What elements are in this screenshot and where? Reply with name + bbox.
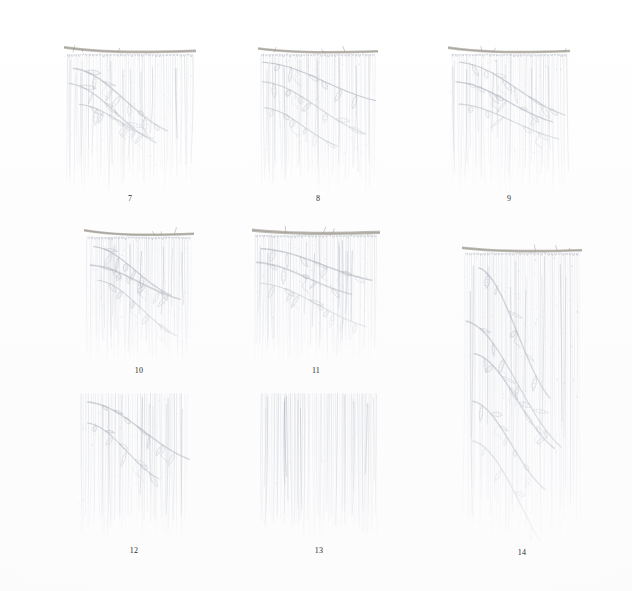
figure-caption-13: 13 — [258, 546, 380, 556]
figure-12 — [78, 392, 190, 540]
macrame-hanging-11 — [252, 222, 380, 364]
figure-9 — [448, 40, 570, 192]
figure-13 — [258, 392, 380, 540]
figure-7 — [64, 40, 196, 192]
macrame-hanging-9 — [448, 40, 570, 192]
figure-caption-8: 8 — [258, 194, 378, 204]
figure-10 — [84, 224, 194, 364]
macrame-hanging-12 — [78, 392, 190, 540]
macrame-hanging-8 — [258, 40, 378, 192]
figure-caption-12: 12 — [78, 546, 190, 556]
figure-caption-10: 10 — [84, 366, 194, 376]
macrame-hanging-10 — [84, 224, 194, 364]
figure-caption-7: 7 — [64, 194, 196, 204]
figure-caption-14: 14 — [462, 548, 582, 558]
figure-caption-9: 9 — [448, 194, 570, 204]
figure-14 — [462, 222, 582, 542]
macrame-plate: 7891011121314 — [0, 0, 632, 591]
macrame-hanging-13 — [258, 392, 380, 540]
figure-caption-11: 11 — [252, 366, 380, 376]
macrame-hanging-14 — [462, 222, 582, 542]
figure-8 — [258, 40, 378, 192]
macrame-hanging-7 — [64, 40, 196, 192]
figure-11 — [252, 222, 380, 364]
